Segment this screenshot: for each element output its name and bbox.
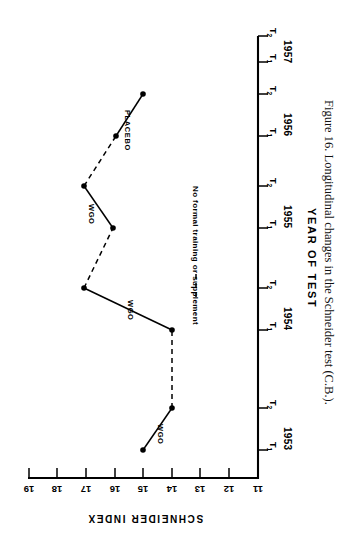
xtick-label-1953-t1: T1: [266, 442, 278, 451]
legend-label: No formal training or supplement: [191, 186, 200, 325]
xaxis-year-1956: 1956: [282, 113, 293, 136]
annotation-wgo-1953: WGO: [156, 424, 165, 445]
segment-1954t2-1955t1-dashed: [84, 228, 113, 288]
segment-1955t2-1956t1-dashed: [84, 136, 116, 186]
xaxis-year-1955: 1955: [282, 205, 293, 228]
figure-caption: Figure 16. Longitudinal changes in the S…: [321, 100, 336, 405]
ytick-label-16: 16: [107, 484, 123, 495]
xtick-label-1956-t2: T2: [266, 86, 278, 95]
ytick-label-11: 11: [250, 484, 266, 495]
axis-title-x: YEAR OF TEST: [306, 208, 318, 308]
ytick-label-13: 13: [192, 484, 208, 495]
ytick-label-12: 12: [221, 484, 237, 495]
data-point-1955-t1: [110, 225, 116, 231]
data-point-1954-t1: [169, 327, 175, 333]
value-axis-ticks: [29, 468, 229, 478]
ytick-label-19: 19: [21, 484, 37, 495]
xaxis-year-1953: 1953: [282, 427, 293, 450]
xtick-label-1953-t2: T2: [266, 400, 278, 409]
category-axis-ticks: [258, 36, 268, 450]
data-point-1955-t2: [81, 183, 87, 189]
xtick-label-1957-t1: T1: [266, 54, 278, 63]
data-point-1956-t1: [113, 133, 119, 139]
annotation-placebo-1956: PLACEBO: [123, 110, 132, 151]
annotation-wgo-1954: WGO: [126, 300, 135, 321]
ytick-label-17: 17: [78, 484, 94, 495]
figure-root: 19 18 17 16 15 14 13 12 11 SCHNEIDER IND…: [0, 0, 350, 546]
xtick-label-1954-t2: T2: [266, 280, 278, 289]
axis-title-y: SCHNEIDER INDEX: [55, 513, 235, 524]
data-point-1953-t2: [169, 405, 175, 411]
xtick-label-1957-t2: T2: [266, 28, 278, 37]
annotation-wgo-1955: WGO: [87, 204, 96, 225]
xaxis-year-1957: 1957: [282, 40, 293, 63]
xtick-label-1955-t2: T2: [266, 178, 278, 187]
ytick-label-18: 18: [49, 484, 65, 495]
xaxis-year-1954: 1954: [282, 307, 293, 330]
xtick-label-1955-t1: T1: [266, 220, 278, 229]
data-point-1954-t2: [81, 285, 87, 291]
chart-svg: [0, 0, 350, 546]
xtick-label-1956-t1: T1: [266, 128, 278, 137]
ytick-label-14: 14: [164, 484, 180, 495]
xtick-label-1954-t1: T1: [266, 322, 278, 331]
data-point-1953-t1: [140, 447, 146, 453]
chart-plot-area: 19 18 17 16 15 14 13 12 11 SCHNEIDER IND…: [0, 0, 350, 546]
data-point-1956-t2: [140, 91, 146, 97]
ytick-label-15: 15: [135, 484, 151, 495]
